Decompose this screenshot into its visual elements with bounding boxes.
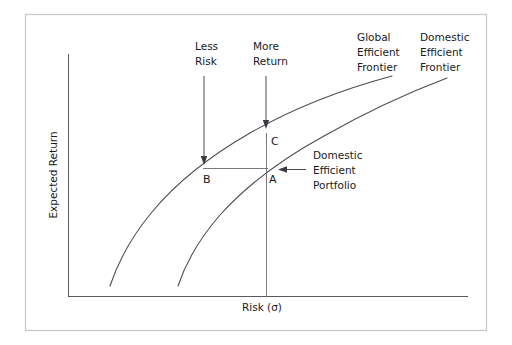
domestic-efficient-frontier-label-group: Domestic Efficient Frontier <box>420 31 470 73</box>
global-efficient-frontier-label-group: Global Efficient Frontier <box>357 31 400 73</box>
global-frontier-label-line-3: Frontier <box>357 61 398 73</box>
domestic-frontier-label-line-1: Domestic <box>420 31 470 43</box>
y-axis-label: Expected Return <box>47 131 59 218</box>
domestic-frontier-label-line-3: Frontier <box>420 61 461 73</box>
less-risk-label-line-2: Risk <box>195 55 218 67</box>
figure-root: Expected Return Risk (σ) Global Efficien… <box>0 0 512 345</box>
less-risk-label-line-1: Less <box>195 40 218 52</box>
efficient-frontier-diagram: Expected Return Risk (σ) Global Efficien… <box>0 0 512 345</box>
domestic-frontier-label-line-2: Efficient <box>420 46 463 58</box>
less-risk-annotation: Less Risk <box>195 40 218 165</box>
more-return-label-line-1: More <box>253 40 279 52</box>
domestic-portfolio-label-line-2: Efficient <box>313 164 356 176</box>
global-frontier-label-line-1: Global <box>357 31 391 43</box>
domestic-portfolio-label-line-3: Portfolio <box>313 179 356 191</box>
global-frontier-label-line-2: Efficient <box>357 46 400 58</box>
point-a-label: A <box>269 173 277 186</box>
more-return-arrow-head-icon <box>263 120 269 129</box>
point-b-label: B <box>203 173 211 186</box>
domestic-portfolio-label-line-1: Domestic <box>313 149 363 161</box>
more-return-label-line-2: Return <box>253 55 288 67</box>
less-risk-arrow-head-icon <box>201 156 207 165</box>
point-c-label: C <box>271 135 279 148</box>
x-axis-label: Risk (σ) <box>242 301 282 313</box>
domestic-portfolio-arrow-head-icon <box>278 166 287 172</box>
